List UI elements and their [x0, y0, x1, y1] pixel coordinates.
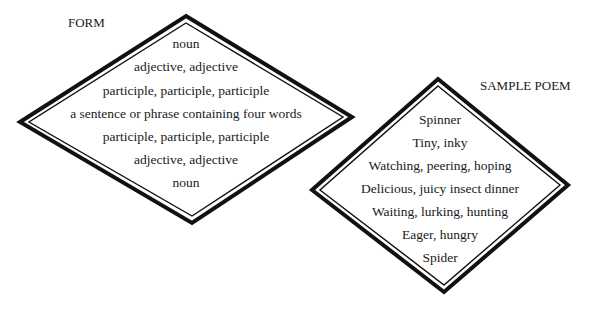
- form-line-participles: participle, participle, participle: [103, 84, 269, 98]
- form-line-participles-2: participle, participle, participle: [103, 130, 269, 144]
- poem-line-1: Spinner: [419, 113, 461, 127]
- form-line-adjectives-2: adjective, adjective: [134, 153, 238, 167]
- poem-line-2: Tiny, inky: [413, 136, 468, 150]
- poem-line-4: Delicious, juicy insect dinner: [361, 182, 519, 196]
- poem-line-5: Waiting, lurking, hunting: [372, 205, 508, 219]
- form-line-adjectives: adjective, adjective: [134, 60, 238, 74]
- form-line-noun: noun: [173, 37, 200, 51]
- poem-line-6: Eager, hungry: [402, 228, 478, 242]
- poem-line-7: Spider: [422, 251, 457, 265]
- poem-line-3: Watching, peering, hoping: [369, 159, 512, 173]
- form-label: FORM: [68, 16, 105, 29]
- form-line-noun-2: noun: [173, 176, 200, 190]
- diamond-frames: [0, 0, 591, 309]
- sample-poem-label: SAMPLE POEM: [480, 79, 571, 92]
- form-line-sentence: a sentence or phrase containing four wor…: [70, 107, 302, 121]
